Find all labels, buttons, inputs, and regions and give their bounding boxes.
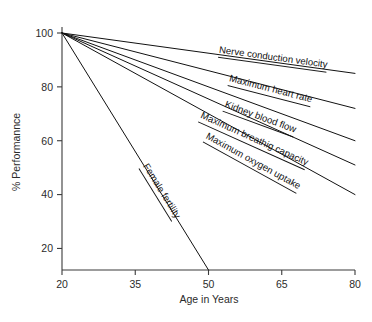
x-tick-label: 80 [349, 278, 361, 290]
x-axis: 2035506580 [56, 270, 361, 290]
series-label-text: Nerve conduction velocity [218, 44, 328, 70]
x-tick-label: 35 [129, 278, 141, 290]
series-label-group: Maximum heart rate [228, 72, 314, 106]
series-line [62, 33, 209, 270]
y-axis: 20406080100 [35, 27, 62, 270]
series-line [62, 33, 355, 141]
y-tick-label: 60 [41, 135, 53, 147]
x-tick-label: 20 [56, 278, 68, 290]
y-axis-title: % Performannce [10, 113, 22, 191]
chart-container: 20406080100 2035506580 Nerve conduction … [0, 0, 372, 322]
x-tick-label: 50 [203, 278, 215, 290]
series-label-text: Maximum heart rate [228, 72, 313, 104]
y-tick-label: 100 [35, 27, 53, 39]
y-tick-label: 20 [41, 242, 53, 254]
y-tick-label: 80 [41, 81, 53, 93]
x-axis-title: Age in Years [180, 293, 239, 305]
series-label-text: Female fertility [141, 161, 183, 220]
series-label-group: Female fertility [139, 161, 183, 221]
series-lines [62, 33, 355, 270]
y-tick-label: 40 [41, 188, 53, 200]
x-tick-label: 65 [276, 278, 288, 290]
performance-decline-line-chart: 20406080100 2035506580 Nerve conduction … [0, 0, 372, 322]
series-labels: Nerve conduction velocityMaximum heart r… [139, 44, 328, 222]
series-label-group: Nerve conduction velocity [218, 44, 328, 72]
